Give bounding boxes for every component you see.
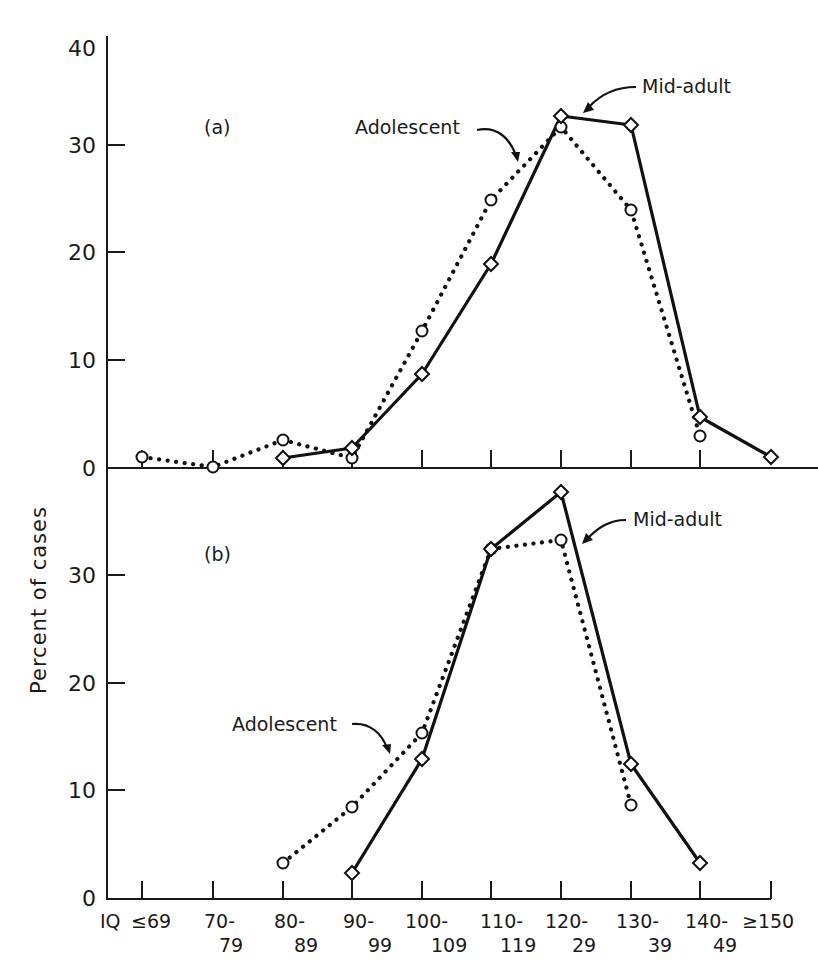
panel-a-mid-adult-markers: [276, 109, 778, 465]
svg-text:99: 99: [368, 934, 392, 956]
svg-text:79: 79: [219, 934, 243, 956]
panel-a-adolescent-label: Adolescent: [355, 116, 460, 138]
panel-a-x-ticks: [142, 450, 700, 468]
svg-text:89: 89: [294, 934, 318, 956]
svg-text:30: 30: [68, 133, 96, 158]
svg-text:140-: 140-: [685, 910, 728, 932]
figure: 40 30 20 10 0 30 20 10 0 Percent of case…: [0, 0, 818, 974]
svg-text:30: 30: [68, 563, 96, 588]
svg-text:29: 29: [572, 934, 596, 956]
svg-text:119: 119: [500, 934, 536, 956]
svg-text:20: 20: [68, 671, 96, 696]
x-tick-labels: IQ ≤69 70- 79 80- 89 90- 99 100- 109 110…: [100, 910, 794, 956]
svg-text:109: 109: [431, 934, 467, 956]
panel-b-adolescent-label: Adolescent: [232, 713, 337, 735]
panel-a-y-tick-labels: 40 30 20 10 0: [68, 36, 96, 481]
svg-text:10: 10: [68, 348, 96, 373]
panel-b-adolescent-line: [283, 540, 631, 863]
panel-a-mid-adult-arrow-icon: [589, 87, 636, 107]
svg-text:80-: 80-: [274, 910, 305, 932]
panel-a-adolescent-line: [142, 127, 700, 467]
svg-text:90-: 90-: [343, 910, 374, 932]
svg-text:10: 10: [68, 778, 96, 803]
x-prefix: IQ: [100, 910, 121, 932]
svg-text:130-: 130-: [616, 910, 659, 932]
panel-a-y-ticks: [107, 145, 125, 360]
svg-text:≤69: ≤69: [131, 910, 171, 932]
svg-text:20: 20: [68, 240, 96, 265]
panel-b-x-ticks: [142, 881, 771, 899]
svg-text:110-: 110-: [480, 910, 523, 932]
panel-a-mid-adult-line: [283, 116, 771, 458]
panel-b-y-tick-labels: 30 20 10 0: [68, 563, 96, 911]
panel-b-mid-adult-label: Mid-adult: [633, 508, 722, 530]
panel-a-adolescent-markers: [137, 122, 706, 473]
y-axis-label: Percent of cases: [27, 506, 51, 694]
panel-b-adolescent-arrow-icon: [352, 724, 387, 748]
svg-text:40: 40: [68, 36, 96, 61]
panel-b-mid-adult-arrow-icon: [588, 520, 626, 538]
svg-text:0: 0: [82, 456, 96, 481]
panel-b-mid-adult-line: [352, 492, 700, 873]
svg-text:120-: 120-: [545, 910, 588, 932]
svg-text:0: 0: [82, 886, 96, 911]
panel-b-adolescent-markers: [278, 535, 637, 869]
svg-text:100-: 100-: [405, 910, 448, 932]
svg-text:70-: 70-: [204, 910, 235, 932]
panel-b-y-ticks: [107, 575, 125, 790]
svg-text:49: 49: [713, 934, 737, 956]
panel-a-mid-adult-label: Mid-adult: [642, 75, 731, 97]
panel-b-label: (b): [204, 543, 231, 565]
svg-text:≥150: ≥150: [742, 910, 794, 932]
panel-a-adolescent-arrow-icon: [477, 129, 516, 156]
panel-a-label: (a): [204, 116, 230, 138]
svg-text:39: 39: [648, 934, 672, 956]
